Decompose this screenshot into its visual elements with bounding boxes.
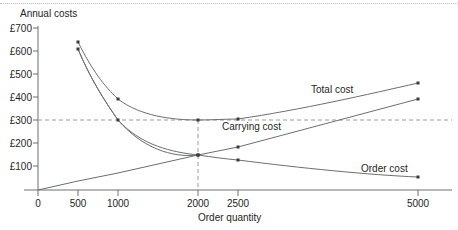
x-axis-ticks [38, 190, 418, 196]
y-axis-ticks [33, 28, 38, 166]
series-markers-order-cost [77, 48, 420, 179]
chart-canvas [0, 0, 458, 230]
series-line-total-cost [78, 42, 418, 120]
series-markers-total-cost [77, 41, 420, 122]
series-line-carrying-cost [38, 99, 418, 190]
chart-figure: Annual costs Order quantity £700 £600 £5… [0, 0, 458, 230]
